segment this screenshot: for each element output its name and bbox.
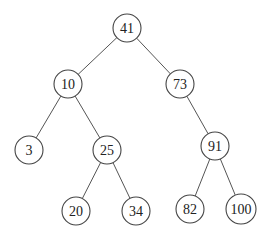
- tree-node-20: 20: [62, 197, 90, 225]
- node-label: 82: [183, 202, 197, 217]
- tree-edge-41-73: [137, 38, 171, 74]
- tree-node-91: 91: [201, 132, 229, 160]
- tree-edge-10-3: [36, 96, 61, 138]
- node-label: 3: [26, 143, 33, 158]
- tree-node-34: 34: [122, 197, 150, 225]
- tree-node-25: 25: [93, 136, 121, 164]
- tree-edge-41-10: [78, 38, 117, 75]
- tree-node-100: 100: [226, 194, 256, 224]
- tree-edges: [36, 38, 235, 199]
- tree-node-10: 10: [54, 70, 82, 98]
- binary-tree-diagram: 41107332591203482100: [0, 0, 274, 239]
- node-label: 34: [129, 204, 143, 219]
- node-label: 10: [61, 77, 75, 92]
- tree-edge-91-100: [220, 159, 235, 195]
- tree-edge-91-82: [195, 159, 210, 196]
- node-label: 73: [173, 77, 187, 92]
- tree-node-82: 82: [176, 195, 204, 223]
- node-label: 91: [208, 139, 222, 154]
- tree-node-41: 41: [113, 14, 141, 42]
- node-label: 100: [231, 202, 252, 217]
- node-label: 25: [100, 143, 114, 158]
- tree-edge-25-20: [82, 162, 100, 198]
- tree-edge-10-25: [75, 96, 100, 138]
- tree-edge-25-34: [113, 163, 130, 199]
- tree-node-3: 3: [15, 136, 43, 164]
- node-label: 20: [69, 204, 83, 219]
- node-label: 41: [120, 21, 134, 36]
- tree-node-73: 73: [166, 70, 194, 98]
- tree-edge-73-91: [187, 96, 208, 134]
- tree-nodes: 41107332591203482100: [15, 14, 256, 225]
